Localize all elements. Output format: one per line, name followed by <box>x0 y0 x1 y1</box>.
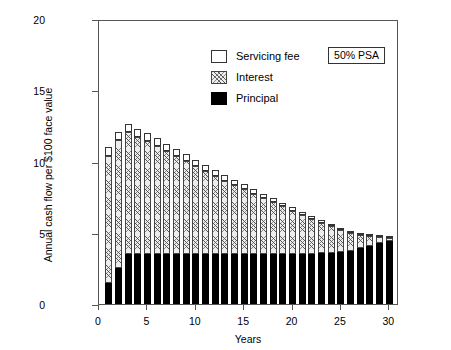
bar-segment-interest <box>144 141 151 254</box>
y-tick-label: 15 <box>15 85 45 97</box>
bar-stack <box>270 19 277 304</box>
bar-segment-principal <box>347 251 354 304</box>
x-tick-label: 15 <box>237 315 249 327</box>
bar-stack <box>115 19 122 304</box>
bar-segment-principal <box>289 254 296 304</box>
bar-stack <box>125 19 132 304</box>
bar-segment-principal <box>299 254 306 304</box>
bar-segment-principal <box>173 254 180 304</box>
bar-stack <box>173 19 180 304</box>
bar-stack <box>328 19 335 304</box>
bar-segment-principal <box>192 254 199 304</box>
bar-segment-interest <box>125 132 132 254</box>
bar-segment-servicing-fee <box>115 132 122 141</box>
bar-stack <box>347 19 354 304</box>
bar-segment-servicing-fee <box>279 203 286 207</box>
bar-stack <box>299 19 306 304</box>
bar-segment-principal <box>154 254 161 304</box>
bar-segment-servicing-fee <box>366 234 373 236</box>
bar-segment-principal <box>260 254 267 304</box>
bar-segment-interest <box>347 233 354 251</box>
bar-segment-principal <box>134 254 141 304</box>
bar-stack <box>289 19 296 304</box>
bar-segment-interest <box>318 223 325 254</box>
x-tick-label: 0 <box>95 315 101 327</box>
bar-segment-interest <box>250 194 257 255</box>
y-tick-label: 20 <box>15 14 45 26</box>
bar-segment-principal <box>144 254 151 304</box>
bar-stack <box>366 19 373 304</box>
bar-segment-servicing-fee <box>386 236 393 238</box>
bar-segment-interest <box>163 151 170 254</box>
bar-segment-principal <box>163 254 170 304</box>
bar-segment-principal <box>328 253 335 304</box>
bar-segment-principal <box>250 254 257 304</box>
bar-segment-interest <box>183 161 190 254</box>
x-tick-mark <box>195 305 196 310</box>
bar-segment-interest <box>279 206 286 254</box>
bar-segment-servicing-fee <box>221 175 228 180</box>
bar-segment-interest <box>328 226 335 252</box>
bar-segment-servicing-fee <box>289 207 296 210</box>
x-axis-label: Years <box>98 333 398 345</box>
bar-segment-interest <box>270 202 277 254</box>
bar-segment-interest <box>260 198 267 254</box>
bar-segment-servicing-fee <box>299 212 306 215</box>
bar-stack <box>376 19 383 304</box>
bar-segment-servicing-fee <box>173 149 180 156</box>
bar-segment-servicing-fee <box>183 154 190 161</box>
bar-segment-interest <box>115 140 122 268</box>
bar-segment-servicing-fee <box>154 138 161 145</box>
bar-segment-servicing-fee <box>318 220 325 223</box>
bar-segment-interest <box>299 215 306 254</box>
bar-segment-principal <box>279 254 286 304</box>
bar-stack <box>212 19 219 304</box>
x-tick-label: 20 <box>286 315 298 327</box>
bar-segment-servicing-fee <box>163 144 170 151</box>
bar-stack <box>318 19 325 304</box>
bar-segment-interest <box>308 219 315 254</box>
bar-stack <box>154 19 161 304</box>
x-tick-mark <box>243 305 244 310</box>
y-tick-label: 10 <box>15 157 45 169</box>
bar-segment-servicing-fee <box>357 233 364 235</box>
bar-stack <box>260 19 267 304</box>
bar-segment-interest <box>231 185 238 254</box>
bar-stack <box>337 19 344 304</box>
y-axis: Annual cash flow per $100 face value 051… <box>0 0 98 350</box>
bar-segment-principal <box>308 254 315 304</box>
bar-segment-interest <box>202 171 209 254</box>
bar-segment-servicing-fee <box>337 228 344 230</box>
bar-segment-interest <box>241 189 248 254</box>
y-axis-label: Annual cash flow per $100 face value <box>42 75 54 275</box>
bar-stack <box>279 19 286 304</box>
bar-segment-servicing-fee <box>270 198 277 202</box>
bar-segment-principal <box>221 254 228 304</box>
bar-segment-servicing-fee <box>134 129 141 137</box>
bar-segment-interest <box>357 235 364 249</box>
x-tick-label: 10 <box>189 315 201 327</box>
bar-segment-servicing-fee <box>376 235 383 237</box>
bar-segment-interest <box>386 238 393 241</box>
bar-segment-servicing-fee <box>250 189 257 194</box>
bar-stack <box>202 19 209 304</box>
bar-segment-servicing-fee <box>192 160 199 166</box>
bar-stack <box>134 19 141 304</box>
bar-segment-principal <box>212 254 219 304</box>
bar-stack <box>241 19 248 304</box>
bar-segment-principal <box>125 254 132 304</box>
bar-segment-servicing-fee <box>202 165 209 171</box>
x-tick-mark <box>292 305 293 310</box>
chart-container: Annual cash flow per $100 face value 051… <box>0 0 451 350</box>
bar-segment-servicing-fee <box>328 224 335 226</box>
bar-segment-servicing-fee <box>308 216 315 219</box>
bar-segment-interest <box>289 211 296 254</box>
bar-segment-interest <box>366 236 373 246</box>
bar-stack <box>308 19 315 304</box>
bar-segment-servicing-fee <box>125 124 132 132</box>
bar-segment-principal <box>231 254 238 304</box>
bar-stack <box>183 19 190 304</box>
bar-stack <box>250 19 257 304</box>
bar-segment-principal <box>318 253 325 304</box>
bar-segment-interest <box>192 166 199 254</box>
